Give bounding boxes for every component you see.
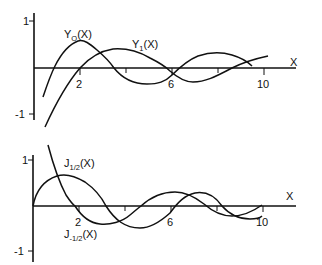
j-half-label: J1/2(X)	[64, 157, 95, 172]
bessel-function-figure: 1 -1 2 6 10 X YO(X) Y1(X) 1 -1 2	[0, 0, 322, 265]
top-xaxis-label: X	[290, 56, 298, 68]
y1-label: Y1(X)	[132, 38, 158, 53]
bottom-ytick-label-neg1: -1	[14, 245, 24, 257]
top-ytick-label-neg1: -1	[15, 108, 25, 120]
bottom-xtick-label-2: 2	[75, 216, 81, 228]
top-xtick-label-10: 10	[257, 78, 269, 90]
bottom-ytick-label-1: 1	[22, 154, 28, 166]
bottom-xaxis-label: X	[286, 190, 294, 202]
j-neg-half-label: J-1/2(X)	[64, 228, 97, 243]
top-chart: 1 -1 2 6 10 X YO(X) Y1(X)	[15, 13, 298, 127]
top-xtick-label-2: 2	[76, 78, 82, 90]
bottom-xtick-label-6: 6	[167, 216, 173, 228]
bottom-chart: 1 -1 2 6 10 X J1/2(X) J-1/2(X)	[14, 145, 296, 262]
top-ytick-label-1: 1	[23, 15, 29, 27]
top-xtick-label-6: 6	[168, 78, 174, 90]
